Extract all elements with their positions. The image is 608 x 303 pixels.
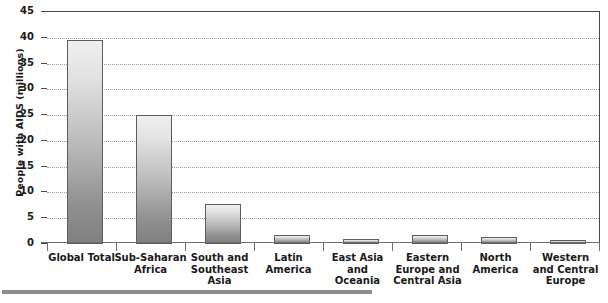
category-tick <box>47 243 48 251</box>
category-label-eastern-europe-and-central-asia: Eastern Europe and Central Asia <box>387 252 468 287</box>
y-tick-label-0: 0 <box>8 238 34 248</box>
category-label-line: Asia <box>182 275 257 287</box>
category-label-line: Global Total <box>44 252 119 264</box>
category-label-western-and-central-europe: Western and Central Europe <box>525 252 606 287</box>
y-tick-mark <box>41 140 47 141</box>
bar-sub-saharan-africa <box>136 115 172 244</box>
category-label-line: Africa <box>113 264 188 276</box>
y-tick-label-25: 25 <box>8 109 34 119</box>
category-label-north-america: North America <box>458 252 533 275</box>
y-tick-label-15: 15 <box>8 161 34 171</box>
category-label-line: North <box>458 252 533 264</box>
y-tick-label-40: 40 <box>8 32 34 42</box>
y-tick-mark <box>41 191 47 192</box>
category-tick <box>323 243 324 251</box>
category-label-latin-america: Latin America <box>251 252 326 275</box>
category-tick <box>599 243 600 251</box>
y-tick-label-45: 45 <box>8 6 34 16</box>
y-tick-mark <box>41 63 47 64</box>
gridline <box>47 192 599 193</box>
category-label-line: and Central <box>525 264 606 276</box>
bar-global-total <box>67 40 103 244</box>
category-label-line: Latin <box>251 252 326 264</box>
y-tick-label-35: 35 <box>8 58 34 68</box>
category-label-east-asia-and-oceania: East Asia and Oceania <box>320 252 395 287</box>
gridline <box>47 64 599 65</box>
aids-bar-chart: People with AIDS (millions) 45 40 35 30 … <box>0 0 608 303</box>
y-tick-label-10: 10 <box>8 186 34 196</box>
category-label-line: Western <box>525 252 606 264</box>
gridline <box>47 115 599 116</box>
y-tick-label-30: 30 <box>8 83 34 93</box>
bar-south-and-southeast-asia <box>205 204 241 244</box>
category-label-line: Europe <box>525 275 606 287</box>
category-tick <box>116 243 117 251</box>
gridline <box>47 89 599 90</box>
category-label-global-total: Global Total <box>44 252 119 264</box>
y-tick-mark <box>41 217 47 218</box>
category-label-line: Oceania <box>320 275 395 287</box>
y-tick-mark <box>41 166 47 167</box>
bottom-rule <box>2 290 372 294</box>
category-label-line: and <box>320 264 395 276</box>
category-tick <box>461 243 462 251</box>
category-label-line: Central Asia <box>387 275 468 287</box>
category-tick <box>254 243 255 251</box>
y-tick-mark <box>41 114 47 115</box>
category-label-line: America <box>458 264 533 276</box>
gridline <box>47 218 599 219</box>
x-axis-line <box>41 242 600 243</box>
category-label-line: Europe and <box>387 264 468 276</box>
category-tick <box>530 243 531 251</box>
category-label-line: East Asia <box>320 252 395 264</box>
plot-area <box>47 11 600 243</box>
category-tick <box>392 243 393 251</box>
gridline <box>47 167 599 168</box>
category-label-line: Eastern <box>387 252 468 264</box>
category-label-line: Sub-Saharan <box>113 252 188 264</box>
gridline <box>47 38 599 39</box>
category-label-line: America <box>251 264 326 276</box>
y-tick-mark <box>41 37 47 38</box>
category-label-sub-saharan-africa: Sub-Saharan Africa <box>113 252 188 275</box>
y-tick-mark <box>41 88 47 89</box>
y-tick-mark <box>41 11 47 12</box>
y-tick-label-20: 20 <box>8 135 34 145</box>
category-label-line: Southeast <box>182 264 257 276</box>
category-label-line: South and <box>182 252 257 264</box>
category-label-south-and-southeast-asia: South and Southeast Asia <box>182 252 257 287</box>
y-tick-label-5: 5 <box>8 212 34 222</box>
gridline <box>47 141 599 142</box>
category-tick <box>185 243 186 251</box>
